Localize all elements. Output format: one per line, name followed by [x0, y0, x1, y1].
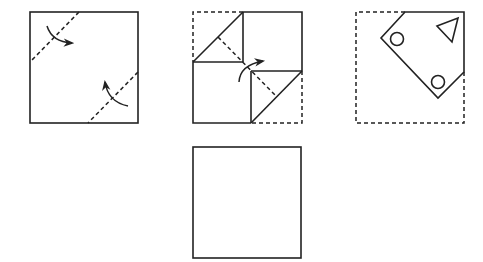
circle-hole-icon [432, 76, 445, 89]
folded-paper [381, 12, 464, 98]
triangle-hole-icon [437, 18, 458, 42]
figure-step-1 [30, 12, 138, 123]
fold-arrow-icon [47, 26, 72, 43]
figure-step-2 [193, 12, 302, 123]
paper-folding-diagram [0, 0, 483, 262]
figure-answer [193, 147, 301, 258]
fold-line-bottom-right [88, 72, 138, 123]
paper-square [30, 12, 138, 123]
answer-square [193, 147, 301, 258]
figure-step-3 [356, 12, 464, 123]
circle-hole-icon [391, 33, 404, 46]
paper-edge-top-right [243, 12, 302, 71]
